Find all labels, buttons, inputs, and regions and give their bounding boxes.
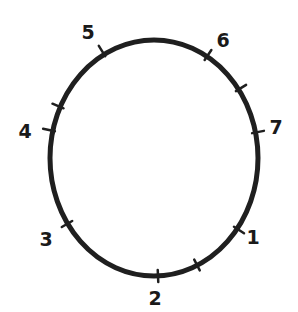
label-7: 7 [269,118,282,137]
label-2: 2 [148,289,161,308]
label-6: 6 [216,31,229,50]
label-5: 5 [81,23,94,42]
label-3: 3 [39,230,52,249]
tick-mark-2 [158,270,159,282]
circle-outline [50,40,258,276]
circle-diagram [0,0,298,312]
label-4: 4 [18,122,31,141]
label-1: 1 [246,228,259,247]
